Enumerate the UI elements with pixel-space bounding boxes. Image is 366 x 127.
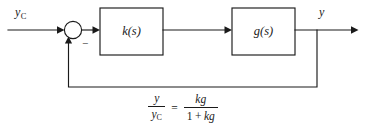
reference-input-label: yC (14, 5, 27, 21)
controller-to-plant-arrowhead (225, 26, 233, 34)
lhs-fraction-bar (148, 106, 165, 107)
equation-lhs-fraction: y yC (148, 92, 165, 123)
rhs-numerator: kg (192, 93, 209, 105)
rhs-plus-sign: + (195, 110, 202, 122)
negative-sign-label: − (82, 37, 88, 49)
rhs-denominator: 1+kg (184, 110, 218, 122)
error-arrowhead (93, 26, 101, 34)
rhs-fraction-bar (184, 107, 218, 108)
equation-rhs-fraction: kg 1+kg (184, 93, 218, 122)
output-signal-label: y (318, 5, 325, 19)
block-diagram-canvas: k(s) g(s) yC y − y yC = (0, 0, 366, 127)
transfer-function-equation: y yC = kg 1+kg (0, 88, 366, 127)
summing-junction-circle (64, 21, 81, 38)
input-arrowhead (57, 26, 65, 34)
equals-sign: = (171, 102, 178, 114)
lhs-numerator: y (151, 92, 162, 104)
equation-row: y yC = kg 1+kg (148, 92, 218, 123)
controller-block-label: k(s) (122, 24, 141, 38)
output-arrowhead (351, 26, 359, 34)
lhs-denominator: yC (148, 108, 164, 123)
plant-block-label: g(s) (254, 24, 273, 38)
